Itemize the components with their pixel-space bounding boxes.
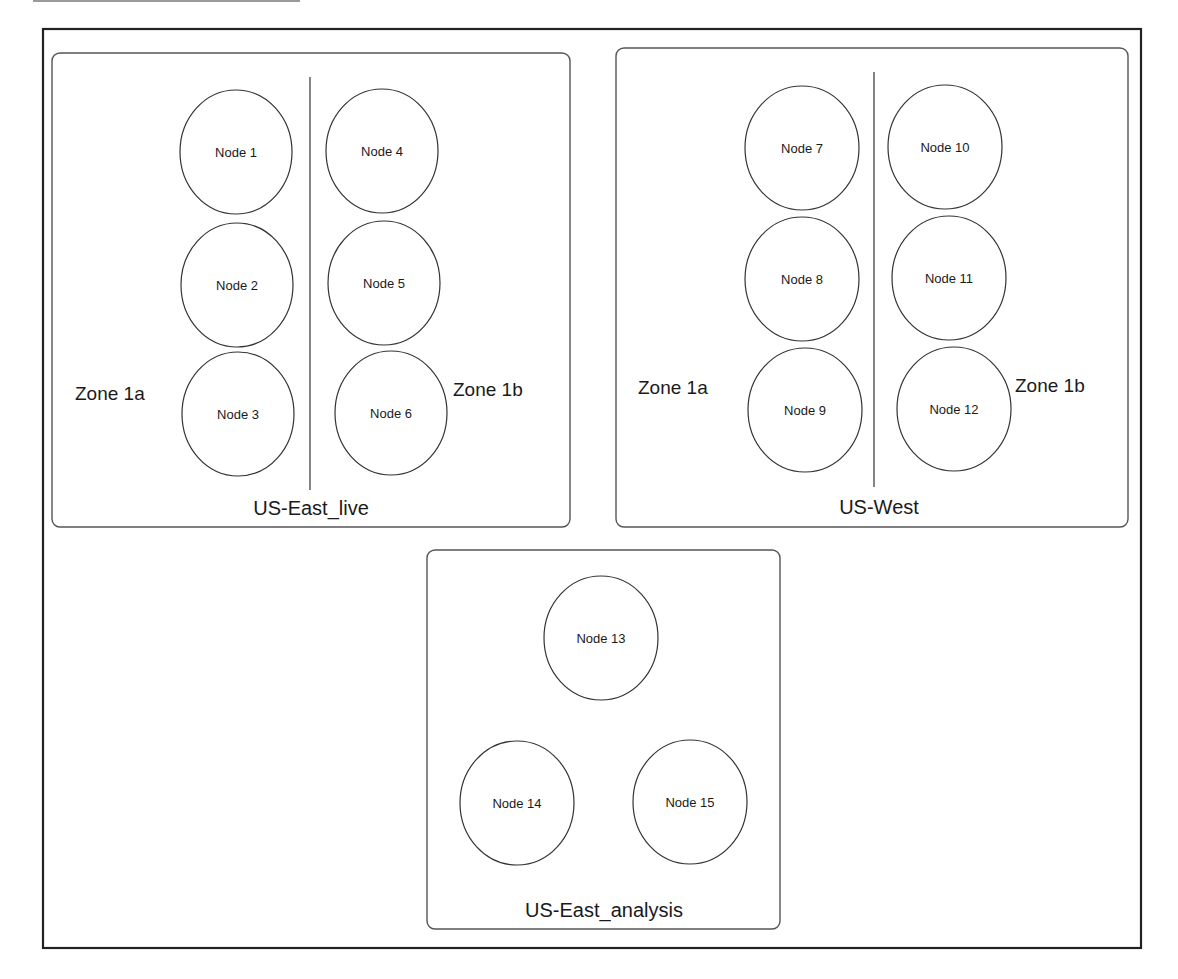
zone-label: Zone 1a [638,377,708,398]
zone-label: Zone 1b [453,379,523,400]
node-label: Node 4 [361,144,403,159]
panel-title: US-East_analysis [525,899,683,922]
node[interactable]: Node 3 [182,352,294,476]
zone-label: Zone 1a [75,383,145,404]
node[interactable]: Node 14 [460,741,574,865]
panel-us-east-analysis: Node 13Node 14Node 15US-East_analysis [427,550,780,929]
datacenter-panels: Zone 1aZone 1bNode 1Node 2Node 3Node 4No… [52,48,1128,929]
node[interactable]: Node 4 [326,89,438,213]
panel-border [52,53,570,527]
node[interactable]: Node 5 [328,221,440,345]
node-label: Node 5 [363,276,405,291]
zone-label: Zone 1b [1015,375,1085,396]
node-label: Node 10 [920,140,969,155]
node[interactable]: Node 12 [897,347,1011,471]
cluster-topology-diagram: Zone 1aZone 1bNode 1Node 2Node 3Node 4No… [0,0,1178,979]
node-label: Node 14 [492,796,541,811]
node-label: Node 15 [665,795,714,810]
node-label: Node 2 [216,278,258,293]
node-label: Node 6 [370,406,412,421]
node[interactable]: Node 13 [544,576,658,700]
node[interactable]: Node 1 [180,90,292,214]
node-label: Node 8 [781,272,823,287]
node-label: Node 13 [576,631,625,646]
node[interactable]: Node 6 [335,351,447,475]
node-label: Node 1 [215,145,257,160]
node[interactable]: Node 11 [892,216,1006,340]
panel-us-east-live: Zone 1aZone 1bNode 1Node 2Node 3Node 4No… [52,53,570,527]
node-label: Node 3 [217,407,259,422]
panel-title: US-East_live [253,497,369,520]
node[interactable]: Node 15 [633,740,747,864]
node[interactable]: Node 10 [888,85,1002,209]
node[interactable]: Node 2 [181,223,293,347]
node-label: Node 7 [781,141,823,156]
node[interactable]: Node 9 [748,348,862,472]
node-label: Node 11 [925,271,973,286]
panel-title: US-West [839,496,919,518]
node-label: Node 12 [929,402,978,417]
node[interactable]: Node 7 [745,86,859,210]
panel-us-west: Zone 1aZone 1bNode 7Node 8Node 9Node 10N… [616,48,1128,527]
panel-border [616,48,1128,527]
node[interactable]: Node 8 [745,217,859,341]
node-label: Node 9 [784,403,826,418]
